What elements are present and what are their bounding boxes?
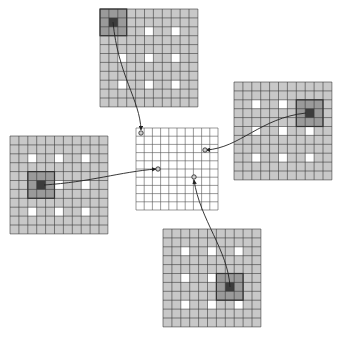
- output-feature-map: [136, 128, 218, 210]
- receptive-field-diagram: [0, 0, 341, 338]
- input-grid-top: [100, 9, 198, 107]
- white-cell: [55, 207, 64, 216]
- white-cell: [171, 80, 180, 89]
- white-cell: [145, 80, 154, 89]
- white-cell: [305, 153, 314, 162]
- white-cell: [181, 300, 190, 309]
- white-cell: [171, 27, 180, 36]
- white-cell: [208, 247, 217, 256]
- white-cell: [81, 154, 90, 163]
- white-cell: [118, 80, 127, 89]
- input-grid-bottom: [163, 229, 261, 327]
- white-cell: [81, 207, 90, 216]
- white-cell: [305, 127, 314, 136]
- white-cell: [208, 300, 217, 309]
- white-cell: [234, 300, 243, 309]
- white-cell: [145, 54, 154, 63]
- endpoint-circle: [203, 148, 207, 152]
- output-grid-center: [136, 128, 218, 210]
- white-cell: [28, 207, 37, 216]
- white-cell: [252, 127, 261, 136]
- endpoint-circle: [192, 175, 196, 179]
- input-grid-left: [10, 136, 108, 234]
- white-cell: [171, 54, 180, 63]
- white-cell: [181, 274, 190, 283]
- endpoint-circle: [139, 131, 143, 135]
- white-cell: [208, 274, 217, 283]
- white-cell: [252, 153, 261, 162]
- endpoint-circle: [156, 167, 160, 171]
- white-cell: [234, 247, 243, 256]
- input-grid-right: [234, 82, 332, 180]
- white-cell: [279, 100, 288, 109]
- white-cell: [252, 100, 261, 109]
- white-cell: [279, 153, 288, 162]
- white-cell: [145, 27, 154, 36]
- white-cell: [55, 181, 64, 190]
- white-cell: [81, 181, 90, 190]
- white-cell: [28, 154, 37, 163]
- white-cell: [181, 247, 190, 256]
- white-cell: [279, 127, 288, 136]
- receptive-field-center: [305, 109, 314, 118]
- diagram-canvas: [0, 0, 341, 338]
- white-cell: [55, 154, 64, 163]
